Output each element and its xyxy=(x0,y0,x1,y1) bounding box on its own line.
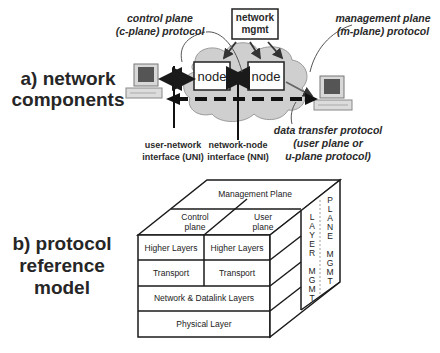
node-left: node xyxy=(194,62,230,90)
computer-icon-right xyxy=(314,76,352,110)
transport-right: Transport xyxy=(219,268,256,278)
management-plane-label: Management Plane xyxy=(218,189,292,199)
management-plane-label-line2: (m-plane) protocol xyxy=(337,25,430,37)
node-right: node xyxy=(248,62,284,90)
control-plane-label-line2: (c-plane) protocol xyxy=(116,25,206,37)
protocol-diagram: a) network components network mgmt node … xyxy=(0,0,440,353)
layer-mgmt-label: L A Y E R M G M T xyxy=(308,212,315,303)
section-a-title-line1: a) network xyxy=(20,68,115,89)
svg-text:node: node xyxy=(252,69,281,84)
higher-layers-right: Higher Layers xyxy=(211,243,264,253)
control-plane-line1: Control xyxy=(181,212,209,222)
data-transfer-label-line2: (user plane or xyxy=(293,137,363,149)
user-plane-line1: User xyxy=(254,212,272,222)
computer-icon-left xyxy=(126,64,162,98)
network-mgmt-line1: network xyxy=(236,12,275,23)
protocol-cube xyxy=(138,180,340,337)
section-a-title-line2: components xyxy=(12,89,125,110)
svg-text:T: T xyxy=(327,276,332,286)
section-b-title-line2: reference xyxy=(19,255,105,276)
svg-text:E: E xyxy=(327,231,333,241)
nni-label-line1: network-node xyxy=(208,140,267,150)
control-plane-line2: plane xyxy=(185,222,206,232)
uni-label-line1: user-network xyxy=(145,140,203,150)
control-plane-label-line1: control plane xyxy=(127,12,193,24)
section-b-title-line1: b) protocol xyxy=(12,233,111,254)
data-transfer-label-line3: u-plane protocol) xyxy=(285,150,371,162)
transport-left: Transport xyxy=(153,268,190,278)
network-mgmt-line2: mgmt xyxy=(241,24,269,35)
network-datalink-layers: Network & Datalink Layers xyxy=(154,293,254,303)
svg-text:R: R xyxy=(309,248,315,258)
section-b-title-line3: model xyxy=(34,277,90,298)
data-transfer-label-line1: data transfer protocol xyxy=(274,124,384,136)
uni-label-line2: interface (UNI) xyxy=(142,152,204,162)
higher-layers-left: Higher Layers xyxy=(145,243,198,253)
nni-label-line2: interface (NNI) xyxy=(207,152,269,162)
svg-text:node: node xyxy=(198,69,227,84)
physical-layer: Physical Layer xyxy=(176,319,231,329)
network-mgmt-box: network mgmt xyxy=(232,9,278,39)
user-plane-line2: plane xyxy=(253,222,274,232)
svg-text:T: T xyxy=(309,293,314,303)
management-plane-label-line1: management plane xyxy=(335,12,430,24)
